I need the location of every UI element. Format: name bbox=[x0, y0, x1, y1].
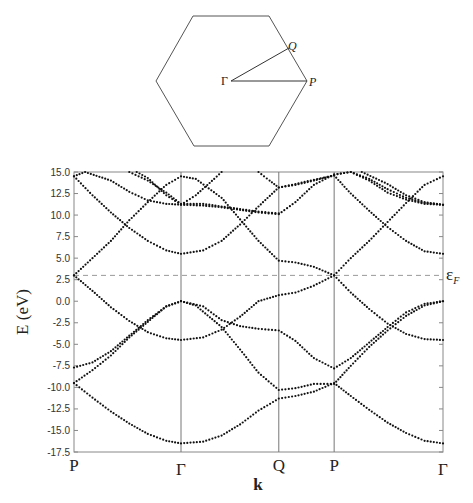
band-point bbox=[217, 241, 219, 243]
band-point bbox=[402, 195, 404, 197]
band-point bbox=[210, 311, 212, 313]
band-point bbox=[84, 171, 86, 173]
band-point bbox=[430, 251, 432, 253]
band-point bbox=[268, 329, 270, 331]
band-point bbox=[214, 205, 216, 207]
band-point bbox=[85, 363, 87, 365]
band-point bbox=[211, 332, 213, 334]
band-point bbox=[136, 325, 138, 327]
band-point bbox=[168, 196, 170, 198]
band-point bbox=[301, 386, 303, 388]
band-point bbox=[270, 382, 272, 384]
band-point bbox=[417, 201, 419, 203]
band-point bbox=[209, 182, 211, 184]
band-point bbox=[126, 221, 128, 223]
band-point bbox=[400, 207, 402, 209]
band-point bbox=[262, 201, 264, 203]
band-point bbox=[442, 442, 444, 444]
band-point bbox=[350, 257, 352, 259]
band-point bbox=[335, 272, 337, 274]
bz-q-label: Q bbox=[288, 39, 297, 53]
band-point bbox=[235, 343, 237, 345]
band-point bbox=[321, 269, 323, 271]
band-point bbox=[128, 227, 130, 229]
band-point bbox=[216, 322, 218, 324]
band-point bbox=[80, 280, 82, 282]
band-point bbox=[157, 311, 159, 313]
band-point bbox=[397, 234, 399, 236]
fermi-subscript: F bbox=[452, 275, 460, 286]
band-point bbox=[382, 226, 384, 228]
band-point bbox=[87, 286, 89, 288]
band-point bbox=[247, 417, 249, 419]
band-point bbox=[304, 288, 306, 290]
band-point bbox=[275, 257, 277, 259]
band-point bbox=[136, 232, 138, 234]
band-point bbox=[271, 193, 273, 195]
band-point bbox=[133, 331, 135, 333]
band-point bbox=[83, 390, 85, 392]
band-10 bbox=[257, 171, 335, 189]
band-point bbox=[357, 351, 359, 353]
band-point bbox=[193, 303, 195, 305]
band-point bbox=[400, 330, 402, 332]
band-point bbox=[200, 182, 202, 184]
band-point bbox=[89, 192, 91, 194]
y-tick-label: -7.5 bbox=[53, 360, 71, 371]
band-point bbox=[248, 326, 250, 328]
band-point bbox=[97, 358, 99, 360]
band-point bbox=[112, 412, 114, 414]
band-point bbox=[244, 312, 246, 314]
band-point bbox=[108, 304, 110, 306]
band-point bbox=[294, 340, 296, 342]
band-point bbox=[368, 342, 370, 344]
band-point bbox=[442, 204, 444, 206]
band-point bbox=[98, 176, 100, 178]
band-point bbox=[433, 441, 435, 443]
band-point bbox=[436, 339, 438, 341]
band-point bbox=[86, 392, 88, 394]
band-point bbox=[395, 327, 397, 329]
band-point bbox=[255, 208, 257, 210]
band-point bbox=[347, 359, 349, 361]
band-point bbox=[442, 300, 444, 302]
band-point bbox=[371, 411, 373, 413]
band-point bbox=[135, 329, 137, 331]
band-point bbox=[278, 398, 280, 400]
band-point bbox=[291, 261, 293, 263]
band-point bbox=[177, 442, 179, 444]
band-point bbox=[101, 298, 103, 300]
band-point bbox=[392, 186, 394, 188]
band-point bbox=[416, 246, 418, 248]
band-point bbox=[294, 183, 296, 185]
band-point bbox=[237, 216, 239, 218]
band-point bbox=[139, 326, 141, 328]
band-point bbox=[141, 236, 143, 238]
band-point bbox=[89, 288, 91, 290]
band-point bbox=[263, 298, 265, 300]
band-point bbox=[243, 354, 245, 356]
band-point bbox=[162, 439, 164, 441]
band-point bbox=[260, 299, 262, 301]
band-point bbox=[257, 205, 259, 207]
band-point bbox=[76, 384, 78, 386]
band-point bbox=[112, 348, 114, 350]
figure: Γ Q P 15.012.510.07.55.02.50.0-2.5-5.0-7… bbox=[0, 0, 473, 503]
band-point bbox=[362, 177, 364, 179]
band-point bbox=[206, 184, 208, 186]
band-point bbox=[337, 179, 339, 181]
band-point bbox=[263, 376, 265, 378]
band-point bbox=[396, 192, 398, 194]
band-point bbox=[87, 261, 89, 263]
band-point bbox=[340, 388, 342, 390]
band-point bbox=[370, 344, 372, 346]
band-point bbox=[245, 226, 247, 228]
band-point bbox=[214, 320, 216, 322]
band-point bbox=[156, 192, 158, 194]
band-point bbox=[410, 312, 412, 314]
band-point bbox=[377, 338, 379, 340]
band-point bbox=[227, 234, 229, 236]
band-point bbox=[411, 197, 413, 199]
band-point bbox=[263, 406, 265, 408]
band-point bbox=[205, 248, 207, 250]
